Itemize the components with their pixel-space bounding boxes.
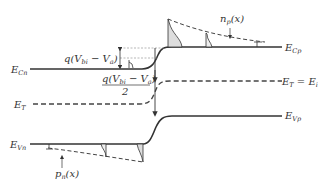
label-half-barrier-num: q(Vbi − Va) <box>102 73 156 86</box>
label-np: np(x) <box>220 13 244 26</box>
valence-band-edge <box>30 116 282 144</box>
pn-distribution-2 <box>101 144 106 157</box>
label-ecp: ECp <box>284 42 302 55</box>
intrinsic-level-et <box>33 81 282 104</box>
pn-distribution-1 <box>137 144 143 162</box>
label-evn: EVn <box>9 139 26 152</box>
np-distribution-2 <box>206 33 212 47</box>
np-envelope <box>168 19 265 42</box>
label-evp: EVp <box>284 110 302 123</box>
band-diagram: ECn ECp ET ET = Ei EVn EVp np(x) pn(x) q… <box>0 0 325 184</box>
label-barrier: q(Vbi − Va) <box>64 53 118 66</box>
label-et-left: ET <box>13 99 26 112</box>
trap-symbol <box>129 60 133 68</box>
label-et-right: ET = Ei <box>281 76 318 89</box>
label-half-barrier-den: 2 <box>121 86 128 97</box>
np-distribution-1 <box>168 19 182 47</box>
label-ecn: ECn <box>10 64 27 77</box>
label-pn: pn(x) <box>55 168 79 181</box>
